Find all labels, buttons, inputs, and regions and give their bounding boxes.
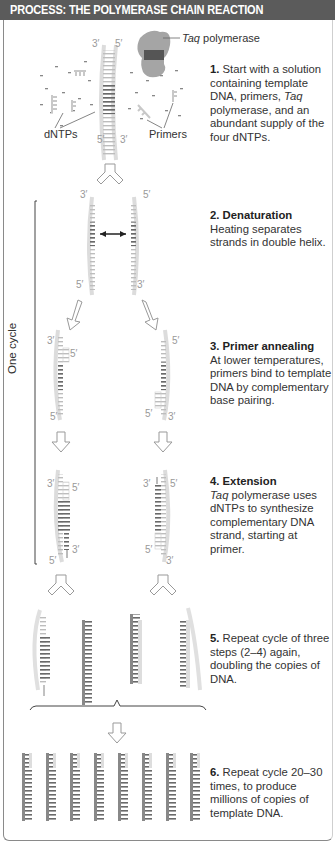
arrow-icon: [154, 432, 172, 452]
one-cycle-label: One cycle: [6, 323, 18, 374]
polymerase-text: polymerase: [200, 32, 260, 44]
arrow-icon: [150, 575, 176, 595]
prime-label: 5′: [143, 189, 150, 200]
step-title: Primer annealing: [223, 340, 315, 352]
prime-label: 3′: [137, 279, 144, 290]
prime-label: 3′: [168, 411, 175, 422]
dntps-label: dNTPs: [44, 128, 78, 140]
arrow-icon: [97, 164, 123, 184]
step-title: Extension: [223, 475, 277, 487]
step-italic: Taq: [210, 489, 228, 501]
prime-label: 3′: [92, 38, 99, 49]
step-number: 2.: [210, 209, 219, 221]
step-text: Start with a solution containing templat…: [210, 63, 321, 102]
prime-label: 5′: [49, 555, 56, 566]
step-text: Repeat cycle of three steps (2–4) again,…: [210, 632, 329, 685]
step-italic: Taq: [284, 90, 302, 102]
prime-label: 5′: [145, 544, 152, 555]
step-number: 5.: [210, 632, 219, 644]
prime-label: 3′: [143, 478, 150, 489]
prime-label: 5′: [70, 348, 77, 359]
prime-label: 3′: [80, 189, 87, 200]
step-2: 2. Denaturation Heating separates strand…: [210, 209, 334, 250]
prime-label: 5′: [172, 335, 179, 346]
denatured-strands-icon: [89, 197, 137, 295]
prime-label: 5′: [50, 411, 57, 422]
prime-label: 5′: [145, 408, 152, 419]
step-number: 4.: [210, 475, 219, 487]
prime-label: 5′: [72, 482, 79, 493]
prime-label: 3′: [72, 544, 79, 555]
prime-label: 5′: [115, 38, 122, 49]
step-4: 4. Extension Taq polymerase uses dNTPs t…: [210, 475, 334, 557]
arrow-left-icon: [67, 300, 82, 330]
primer-annealing-icon: [55, 330, 168, 420]
step-text: polymerase, and an abundant supply of th…: [210, 104, 324, 143]
step-number: 3.: [210, 340, 219, 352]
step-5: 5. Repeat cycle of three steps (2–4) aga…: [210, 632, 334, 686]
step-number: 6.: [210, 766, 219, 778]
prime-label: 3′: [166, 555, 173, 566]
prime-label: 5′: [170, 478, 177, 489]
step-text: Repeat cycle 20–30 times, to produce mil…: [210, 766, 322, 819]
prime-label: 5′: [97, 134, 104, 145]
step-text: At lower temperatures, primers bind to t…: [210, 354, 331, 407]
step-title: Denaturation: [223, 209, 293, 221]
prime-label: 3′: [47, 478, 54, 489]
step-text: Heating separates strands in double heli…: [210, 223, 326, 249]
prime-label: 3′: [47, 335, 54, 346]
arrow-icon: [108, 723, 126, 743]
arrow-icon: [48, 575, 74, 595]
taq-italic: Taq: [182, 32, 200, 44]
taq-polymerase-icon: [137, 31, 180, 77]
arrow-right-icon: [142, 300, 158, 330]
prime-label: 5′: [76, 279, 83, 290]
prime-label: 3′: [120, 134, 127, 145]
taq-polymerase-label: Taq polymerase: [182, 32, 260, 44]
step-6: 6. Repeat cycle 20–30 times, to produce …: [210, 766, 334, 820]
step-3: 3. Primer annealing At lower temperature…: [210, 340, 334, 408]
step-number: 1.: [210, 63, 219, 75]
cycle-brace: [30, 700, 206, 710]
step-1: 1. Start with a solution containing temp…: [210, 63, 334, 145]
dna-copies-icon: [22, 753, 200, 821]
doubled-dna-icon: [34, 608, 200, 705]
primers-label: Primers: [149, 128, 187, 140]
cycle-bracket: [35, 201, 37, 564]
arrow-icon: [52, 432, 70, 452]
